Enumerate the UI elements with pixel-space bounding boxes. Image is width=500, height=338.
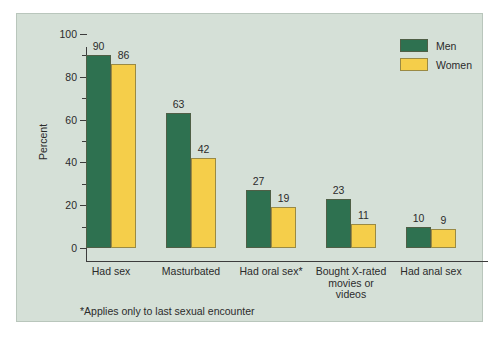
- y-tick-label: 60: [33, 115, 77, 125]
- legend-swatch-men-icon: [400, 39, 428, 52]
- x-category-label-line: Had sex: [65, 266, 157, 278]
- bar-men-1: [166, 113, 191, 248]
- bar-women-2: [271, 207, 296, 248]
- x-category-label-line: videos: [305, 289, 397, 301]
- legend-item-men: Men: [400, 39, 492, 52]
- bar-value-women-4: 9: [424, 215, 463, 226]
- bar-women-1: [191, 158, 216, 248]
- y-tick-major: [80, 34, 87, 35]
- bar-women-3: [351, 224, 376, 248]
- chart-figure: Percent 100806040200 9086Had sex6342Mast…: [0, 0, 500, 338]
- y-axis-tick-labels: 100806040200: [29, 14, 77, 338]
- bar-value-men-1: 63: [159, 99, 198, 110]
- y-tick-label: 100: [33, 29, 77, 39]
- x-category-label-line: Bought X-rated: [305, 266, 397, 278]
- bar-men-0: [86, 55, 111, 248]
- x-category-label-line: Had anal sex: [385, 266, 477, 278]
- bar-value-men-3: 23: [319, 185, 358, 196]
- legend-label-women: Women: [436, 59, 472, 71]
- bar-value-men-2: 27: [239, 176, 278, 187]
- chart-legend: Men Women: [400, 39, 492, 77]
- bar-women-0: [111, 64, 136, 248]
- bar-value-women-0: 86: [104, 50, 143, 61]
- x-category-label-line: Had oral sex*: [225, 266, 317, 278]
- bar-men-3: [326, 199, 351, 248]
- x-category-label-1: Masturbated: [145, 266, 237, 278]
- legend-item-women: Women: [400, 58, 492, 71]
- legend-swatch-women-icon: [400, 58, 428, 71]
- bar-men-4: [406, 227, 431, 248]
- y-tick-label: 80: [33, 72, 77, 82]
- y-tick-label: 0: [33, 243, 77, 253]
- x-category-label-0: Had sex: [65, 266, 157, 278]
- x-category-label-4: Had anal sex: [385, 266, 477, 278]
- x-category-label-line: Masturbated: [145, 266, 237, 278]
- chart-footnote: *Applies only to last sexual encounter: [80, 305, 255, 317]
- bar-women-4: [431, 229, 456, 248]
- y-tick-major: [80, 248, 87, 249]
- bar-value-women-3: 11: [344, 210, 383, 221]
- y-tick-label: 20: [33, 200, 77, 210]
- x-category-label-2: Had oral sex*: [225, 266, 317, 278]
- chart-panel: Percent 100806040200 9086Had sex6342Mast…: [16, 13, 483, 322]
- bar-value-women-2: 19: [264, 193, 303, 204]
- bar-value-women-1: 42: [184, 144, 223, 155]
- x-category-label-3: Bought X-ratedmovies orvideos: [305, 266, 397, 301]
- y-tick-label: 40: [33, 157, 77, 167]
- legend-label-men: Men: [436, 40, 456, 52]
- x-axis-line: [86, 261, 488, 262]
